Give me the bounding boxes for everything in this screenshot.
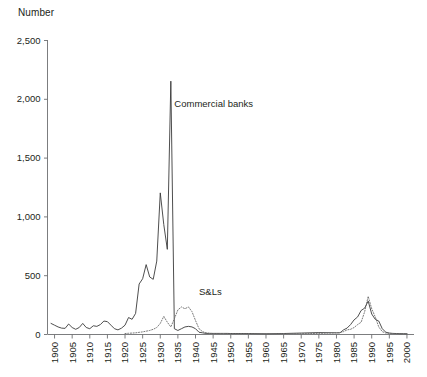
x-tick-label: 1970: [296, 342, 307, 363]
y-tick-label: 500: [25, 270, 41, 281]
y-axis-group: 05001,0001,5002,0002,500: [17, 35, 48, 340]
x-tick-label: 1955: [243, 342, 254, 363]
x-tick-label: 1925: [137, 342, 148, 363]
x-tick-label: 1910: [84, 342, 95, 363]
y-tick-label: 2,000: [17, 93, 41, 104]
x-tick-label: 1905: [67, 342, 78, 363]
series-group: [51, 81, 407, 334]
series-annotation-s-ls: S&Ls: [199, 286, 222, 297]
y-tick-label: 0: [35, 329, 40, 340]
x-axis-group: 1900190519101915192019251930193519401945…: [48, 335, 415, 364]
x-tick-label: 1935: [172, 342, 183, 363]
chart-container: Number 05001,0001,5002,0002,500 19001905…: [0, 0, 427, 377]
y-tick-label: 1,000: [17, 211, 41, 222]
annotation-group: Commercial banksS&Ls: [174, 98, 253, 297]
x-tick-label: 1920: [119, 342, 130, 363]
line-chart-plot: 05001,0001,5002,0002,500 190019051910191…: [0, 0, 427, 377]
y-tick-label: 1,500: [17, 152, 41, 163]
x-tick-label: 1915: [102, 342, 113, 363]
x-tick-label: 1995: [384, 342, 395, 363]
x-tick-label: 1945: [208, 342, 219, 363]
x-tick-label: 1950: [225, 342, 236, 363]
x-tick-label: 1990: [366, 342, 377, 363]
x-tick-label: 1960: [260, 342, 271, 363]
y-tick-group: 05001,0001,5002,0002,500: [17, 35, 48, 340]
x-tick-label: 1965: [278, 342, 289, 363]
series-line-commercial-banks: [51, 81, 407, 334]
x-tick-label: 1900: [49, 342, 60, 363]
x-tick-label: 1930: [155, 342, 166, 363]
x-tick-label: 1975: [313, 342, 324, 363]
x-tick-label: 1985: [348, 342, 359, 363]
x-tick-group: 1900190519101915192019251930193519401945…: [49, 335, 412, 364]
x-tick-label: 2000: [401, 342, 412, 363]
y-tick-label: 2,500: [17, 35, 41, 46]
x-tick-label: 1940: [190, 342, 201, 363]
series-annotation-commercial-banks: Commercial banks: [174, 98, 253, 109]
x-tick-label: 1980: [331, 342, 342, 363]
series-line-s-ls: [125, 296, 407, 333]
